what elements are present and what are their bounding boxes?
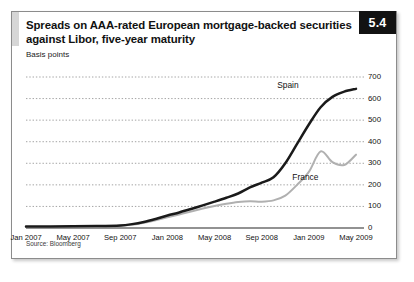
- y-axis-tick-label: 700: [368, 72, 381, 81]
- source-note: Source: Bloomberg: [26, 240, 81, 247]
- y-axis-tick-label: 300: [368, 158, 381, 167]
- y-axis-tick-label: 400: [368, 137, 381, 146]
- y-axis-tick-label: 200: [368, 180, 381, 189]
- y-axis-tick-label: 600: [368, 94, 381, 103]
- y-axis-tick-label: 100: [368, 201, 381, 210]
- series-label-france: France: [292, 172, 318, 182]
- chart-canvas: [12, 12, 398, 260]
- y-axis-tick-label: 0: [368, 223, 372, 232]
- series-label-spain: Spain: [277, 80, 298, 90]
- y-axis-tick-label: 500: [368, 115, 381, 124]
- plot-area: 0100200300400500600700Jan 2007May 2007Se…: [12, 12, 398, 260]
- x-axis-tick-label: May 2009: [328, 233, 384, 242]
- figure-panel: 5.4 Spreads on AAA-rated European mortga…: [11, 11, 397, 259]
